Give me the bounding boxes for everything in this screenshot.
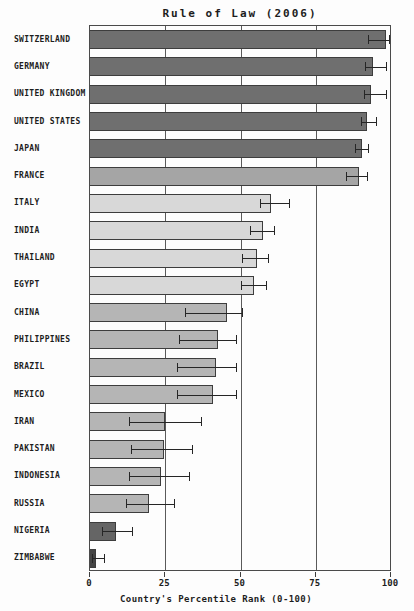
error-bar (177, 395, 236, 396)
error-bar-cap (236, 390, 237, 399)
country-label: IRAN (14, 416, 34, 425)
error-bar (260, 203, 289, 204)
error-bar (355, 149, 369, 150)
error-bar-cap (104, 554, 105, 563)
country-label: BRAZIL (14, 362, 45, 371)
error-bar (102, 531, 132, 532)
error-bar (364, 94, 387, 95)
country-label: CHINA (14, 307, 40, 316)
x-axis-tick (89, 572, 90, 577)
chart-canvas: Rule of Law (2006) SWITZERLANDGERMANYUNI… (0, 0, 414, 611)
error-bar-cap (266, 281, 267, 290)
country-label: MEXICO (14, 389, 45, 398)
error-bar-cap (129, 472, 130, 481)
gridline-25 (165, 26, 166, 570)
x-axis-tick (240, 572, 241, 577)
x-axis-tick (315, 572, 316, 577)
error-bar-cap (274, 226, 275, 235)
error-bar-cap (126, 499, 127, 508)
x-axis-title: Country's Percentile Rank (0-100) (120, 594, 312, 604)
error-bar-cap (177, 363, 178, 372)
error-bar-cap (386, 62, 387, 71)
error-bar (346, 176, 367, 177)
gridline-75 (316, 26, 317, 570)
bar-switzerland (90, 30, 386, 49)
error-bar-cap (368, 35, 369, 44)
error-bar (242, 258, 268, 259)
error-bar-cap (389, 35, 390, 44)
error-bar-cap (367, 172, 368, 181)
error-bar-cap (185, 308, 186, 317)
bar-germany (90, 57, 373, 76)
country-label: PHILIPPINES (14, 334, 70, 343)
error-bar-cap (242, 254, 243, 263)
bar-italy (90, 194, 271, 213)
bar-france (90, 167, 359, 186)
plot-area (89, 25, 391, 571)
error-bar-cap (201, 417, 202, 426)
error-bar (131, 449, 193, 450)
error-bar-cap (361, 117, 362, 126)
x-axis-tick-label: 100 (382, 578, 398, 588)
bar-japan (90, 139, 362, 158)
error-bar (129, 422, 201, 423)
error-bar-cap (289, 199, 290, 208)
error-bar-cap (268, 254, 269, 263)
error-bar-cap (174, 499, 175, 508)
bar-egypt (90, 276, 254, 295)
x-axis-tick-label: 25 (159, 578, 170, 588)
country-label: EGYPT (14, 280, 40, 289)
bar-thailand (90, 249, 257, 268)
x-axis-tick (164, 572, 165, 577)
error-bar-cap (192, 445, 193, 454)
error-bar-cap (241, 281, 242, 290)
x-axis-tick-label: 50 (234, 578, 245, 588)
country-label: JAPAN (14, 143, 40, 152)
error-bar-cap (364, 90, 365, 99)
country-label: SWITZERLAND (14, 34, 70, 43)
error-bar (177, 367, 236, 368)
x-axis-tick-label: 0 (86, 578, 91, 588)
error-bar-cap (365, 62, 366, 71)
country-label: UNITED STATES (14, 116, 81, 125)
gridline-50 (241, 26, 242, 570)
country-label: FRANCE (14, 171, 45, 180)
error-bar-cap (260, 199, 261, 208)
country-label: ITALY (14, 198, 40, 207)
error-bar-cap (355, 144, 356, 153)
error-bar (126, 504, 174, 505)
error-bar-cap (236, 335, 237, 344)
country-label: INDONESIA (14, 471, 60, 480)
country-label: UNITED KINGDOM (14, 89, 86, 98)
country-label: GERMANY (14, 61, 50, 70)
error-bar-cap (346, 172, 347, 181)
chart-title: Rule of Law (2006) (89, 7, 391, 20)
error-bar-cap (132, 527, 133, 536)
error-bar (92, 558, 104, 559)
country-label: ZIMBABWE (14, 553, 55, 562)
country-label: NIGERIA (14, 526, 50, 535)
country-label: INDIA (14, 225, 40, 234)
error-bar-cap (376, 117, 377, 126)
error-bar-cap (236, 363, 237, 372)
error-bar-cap (386, 90, 387, 99)
bar-india (90, 221, 263, 240)
error-bar-cap (177, 390, 178, 399)
country-label: RUSSIA (14, 498, 45, 507)
error-bar-cap (250, 226, 251, 235)
error-bar-cap (131, 445, 132, 454)
error-bar-cap (102, 527, 103, 536)
x-axis-tick (390, 572, 391, 577)
x-axis: 0255075100 (89, 572, 391, 594)
error-bar-cap (92, 554, 93, 563)
error-bar-cap (189, 472, 190, 481)
country-label: PAKISTAN (14, 444, 55, 453)
x-axis-tick-label: 75 (309, 578, 320, 588)
error-bar (179, 340, 236, 341)
country-label: THAILAND (14, 253, 55, 262)
error-bar (185, 313, 242, 314)
error-bar (365, 67, 386, 68)
error-bar (129, 476, 189, 477)
bar-united-states (90, 112, 367, 131)
error-bar (361, 122, 376, 123)
